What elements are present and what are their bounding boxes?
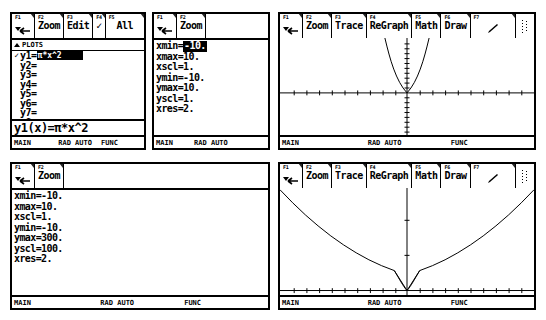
list-item[interactable]: xres= 2. bbox=[14, 254, 266, 265]
toolbar-empty-area bbox=[64, 164, 268, 188]
window-variable-list-1: xmin= -10. xmax= 10. xscl= 1. ymin= -10.… bbox=[154, 40, 268, 115]
toolbar-button-f3-edit[interactable]: F3 Edit bbox=[64, 14, 93, 38]
list-item[interactable]: xscl= 1. bbox=[156, 62, 266, 73]
variable-name: ymax= bbox=[14, 233, 41, 244]
tools-arrow-icon bbox=[282, 20, 300, 30]
toolbar-label: Trace bbox=[334, 170, 364, 182]
toolbar-button-f2-zoom[interactable]: F2 Zoom bbox=[177, 14, 206, 38]
toolbar-button-f4-check[interactable]: F4 ✓ bbox=[93, 14, 106, 38]
variable-value[interactable]: 300. bbox=[41, 233, 63, 244]
fkey-label: F7 bbox=[473, 164, 479, 170]
toolbar-button-f4-regraph[interactable]: F4 ReGraph bbox=[367, 164, 413, 188]
graph-plot-area-2[interactable] bbox=[280, 188, 534, 297]
variable-value[interactable]: 1. bbox=[183, 62, 194, 73]
pencil-icon bbox=[486, 20, 500, 32]
toolbar-label: Zoom bbox=[305, 170, 329, 182]
status-folder: MAIN bbox=[280, 299, 368, 307]
status-angle-mode: RAD AUTO bbox=[368, 299, 451, 307]
graph-toolbar-1: F1 F2 Zoom F3 Trace F4 ReGraph bbox=[280, 14, 534, 40]
toolbar-label: ReGraph bbox=[369, 20, 410, 32]
toolbar-button-f6-draw[interactable]: F6 Draw bbox=[441, 14, 470, 38]
calculator-screenshot-grid: F1 F2 Zoom F3 Edit F4 ✓ bbox=[0, 0, 546, 320]
window-editor-toolbar-1: F1 F2 Zoom bbox=[154, 14, 268, 40]
variable-value-highlighted[interactable]: -10. bbox=[183, 41, 207, 52]
list-item[interactable]: xres= 2. bbox=[156, 104, 266, 115]
toolbar-label: Math bbox=[414, 170, 438, 182]
toolbar-label: Draw bbox=[443, 170, 467, 182]
triangle-up-icon bbox=[14, 43, 20, 47]
toolbar-button-f1-tools[interactable]: F1 bbox=[12, 14, 35, 38]
status-bar: MAIN RAD AUTO FUNC bbox=[12, 295, 268, 308]
variable-value[interactable]: 1. bbox=[41, 212, 52, 223]
function-value-highlighted[interactable]: π*x^2 bbox=[37, 51, 83, 60]
graph-screen-2: F1 F2 Zoom F3 Trace F4 ReGraph bbox=[278, 162, 536, 310]
toolbar-button-f2-zoom[interactable]: F2 Zoom bbox=[303, 14, 332, 38]
toolbar-button-f3-trace[interactable]: F3 Trace bbox=[332, 164, 367, 188]
fkey-label: F7 bbox=[473, 14, 479, 20]
variable-value[interactable]: 10. bbox=[183, 83, 199, 94]
toolbar-button-f6-draw[interactable]: F6 Draw bbox=[441, 164, 470, 188]
fkey-label: F5 bbox=[108, 14, 114, 20]
variable-name: xscl= bbox=[14, 212, 41, 223]
toolbar-empty-area bbox=[206, 14, 268, 38]
status-bar: MAIN RAD AUTO FUNC bbox=[280, 295, 534, 308]
toolbar-button-f5-math[interactable]: F5 Math bbox=[412, 14, 441, 38]
dots-icon bbox=[521, 169, 529, 183]
variable-value[interactable]: -10. bbox=[41, 191, 63, 202]
variable-value[interactable]: 2. bbox=[183, 104, 194, 115]
status-angle-mode: RAD AUTO bbox=[368, 139, 451, 147]
toolbar-button-f2-zoom[interactable]: F2 Zoom bbox=[35, 14, 64, 38]
toolbar-button-f4-regraph[interactable]: F4 ReGraph bbox=[367, 14, 413, 38]
variable-name: xscl= bbox=[156, 62, 183, 73]
list-item[interactable]: xmin= -10. bbox=[156, 41, 266, 52]
toolbar-button-f3-trace[interactable]: F3 Trace bbox=[332, 14, 367, 38]
variable-name: xres= bbox=[156, 104, 183, 115]
status-bar: MAIN RAD AUTO FUNC bbox=[280, 135, 534, 148]
list-item[interactable]: xscl= 1. bbox=[14, 212, 266, 223]
status-folder: MAIN bbox=[12, 139, 58, 147]
toolbar-button-f1-tools[interactable]: F1 bbox=[280, 14, 303, 38]
variable-value[interactable]: 2. bbox=[41, 254, 52, 265]
toolbar-button-f1-tools[interactable]: F1 bbox=[280, 164, 303, 188]
toolbar-button-f2-zoom[interactable]: F2 Zoom bbox=[303, 164, 332, 188]
list-item[interactable]: ymax= 300. bbox=[14, 233, 266, 244]
list-item[interactable]: xmin= -10. bbox=[14, 191, 266, 202]
plots-label: PLOTS bbox=[22, 41, 43, 49]
toolbar-button-f7-pencil[interactable]: F7 bbox=[471, 164, 515, 188]
toolbar-button-f7-pencil[interactable]: F7 bbox=[471, 14, 515, 38]
function-enabled-check[interactable]: ✓ bbox=[13, 51, 20, 61]
toolbar-label: ReGraph bbox=[369, 170, 410, 182]
toolbar-label: Zoom bbox=[305, 20, 329, 32]
variable-name: xmin= bbox=[14, 191, 41, 202]
graph-plot-area-1[interactable] bbox=[280, 38, 534, 137]
toolbar-button-f5-all[interactable]: F5 All bbox=[106, 14, 144, 38]
status-bar: MAIN RAD AUTO bbox=[154, 135, 268, 148]
toolbar-button-f2-zoom[interactable]: F2 Zoom bbox=[35, 164, 64, 188]
toolbar-button-f1-tools[interactable]: F1 bbox=[12, 164, 35, 188]
toolbar-label: Draw bbox=[443, 20, 467, 32]
window-editor-toolbar-2: F1 F2 Zoom bbox=[12, 164, 268, 190]
tools-arrow-icon bbox=[14, 170, 32, 180]
tools-arrow-icon bbox=[282, 170, 300, 180]
graph-svg-1 bbox=[280, 38, 534, 137]
status-graph-mode: FUNC bbox=[451, 299, 534, 307]
status-graph-mode: FUNC bbox=[184, 299, 268, 307]
status-graph-mode: FUNC bbox=[101, 139, 144, 147]
toolbar-button-f1-tools[interactable]: F1 bbox=[154, 14, 177, 38]
tools-arrow-icon bbox=[156, 20, 174, 30]
status-folder: MAIN bbox=[280, 139, 368, 147]
window-editor-screen-2: F1 F2 Zoom xmin= -10. xmax= 10. bbox=[10, 162, 270, 310]
graph-svg-2 bbox=[280, 188, 534, 297]
toolbar-label: Zoom bbox=[37, 170, 61, 182]
variable-name: ymax= bbox=[156, 83, 183, 94]
status-graph-mode: FUNC bbox=[451, 139, 534, 147]
variable-name: xmin= bbox=[156, 41, 183, 52]
toolbar-label: All bbox=[116, 20, 135, 32]
toolbar-label: Zoom bbox=[179, 20, 203, 32]
toolbar-button-f5-math[interactable]: F5 Math bbox=[412, 164, 441, 188]
toolbar-label: Edit bbox=[66, 20, 90, 32]
scroll-indicator bbox=[515, 14, 534, 38]
status-folder: MAIN bbox=[154, 139, 194, 147]
list-item[interactable]: ymax= 10. bbox=[156, 83, 266, 94]
scroll-indicator bbox=[515, 164, 534, 188]
